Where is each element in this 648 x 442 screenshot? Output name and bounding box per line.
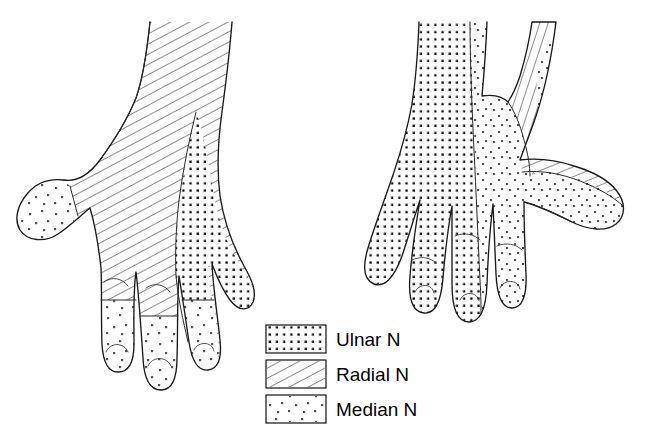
legend-label-ulnar: Ulnar N: [336, 329, 400, 350]
legend-swatch-radial-fill: [267, 361, 325, 387]
legend-swatch-ulnar-fill: [267, 326, 325, 352]
hands-illustration: Ulnar N Radial N Median N: [0, 0, 648, 442]
legend-item-ulnar: Ulnar N: [266, 325, 400, 353]
legend-item-median: Median N: [266, 395, 417, 423]
nerve-supply-diagram: Ulnar N Radial N Median N: [0, 0, 648, 442]
legend-label-median: Median N: [336, 399, 417, 420]
legend-swatch-median-fill: [267, 396, 325, 422]
legend: Ulnar N Radial N Median N: [266, 325, 417, 423]
legend-item-radial: Radial N: [266, 360, 409, 388]
legend-label-radial: Radial N: [336, 364, 409, 385]
